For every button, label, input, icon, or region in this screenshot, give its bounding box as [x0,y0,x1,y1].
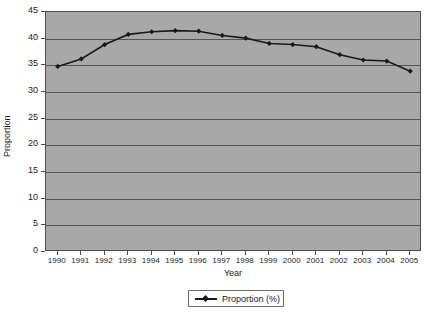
data-point-marker [126,32,131,37]
x-axis-tick-mark [245,251,246,255]
x-axis-tick-label: 2000 [279,256,305,265]
legend-item-label: Proportion (%) [222,294,280,304]
x-axis-tick-mark [315,251,316,255]
x-axis-tick-label: 1996 [185,256,211,265]
x-axis-title: Year [45,268,421,278]
x-axis-tick-label: 1993 [114,256,140,265]
data-point-marker [55,64,60,69]
x-axis-tick-mark [292,251,293,255]
x-axis-tick-label: 2002 [326,256,352,265]
data-point-marker [337,52,342,57]
x-axis-tick-mark [174,251,175,255]
y-axis-title: Proportion [2,96,16,176]
y-axis-tick-label: 30 [14,86,38,95]
x-axis-tick-label: 1994 [138,256,164,265]
y-axis-tick-label: 35 [14,59,38,68]
x-axis-tick-mark [362,251,363,255]
series-proportion [46,12,422,252]
legend: Proportion (%) [188,290,284,307]
x-axis-tick-label: 1998 [232,256,258,265]
x-axis-tick-mark [127,251,128,255]
y-axis-tick-label: 45 [14,6,38,15]
data-point-marker [290,42,295,47]
y-axis-tick-label: 0 [14,246,38,255]
x-axis-tick-label: 1990 [44,256,70,265]
x-axis-tick-mark [221,251,222,255]
data-point-marker [220,33,225,38]
data-point-marker [243,36,248,41]
x-axis-tick-mark [151,251,152,255]
data-point-marker [384,58,389,63]
data-point-marker [361,57,366,62]
y-axis-tick-label: 15 [14,166,38,175]
data-point-marker [408,69,413,74]
x-axis-tick-mark [386,251,387,255]
x-axis-tick-label: 1999 [255,256,281,265]
x-axis-tick-label: 1991 [67,256,93,265]
x-axis-tick-mark [339,251,340,255]
x-axis-tick-mark [268,251,269,255]
y-axis-tick-mark [41,251,45,252]
x-axis-tick-mark [104,251,105,255]
series-line [58,31,411,72]
y-axis-tick-label: 25 [14,113,38,122]
line-chart: Proportion 051015202530354045 1990199119… [0,0,434,316]
y-axis-tick-label: 5 [14,219,38,228]
data-point-marker [149,29,154,34]
x-axis-tick-label: 2005 [396,256,422,265]
y-axis-tick-label: 40 [14,33,38,42]
data-point-marker [267,41,272,46]
x-axis-tick-label: 2003 [349,256,375,265]
x-axis-tick-mark [57,251,58,255]
x-axis-tick-label: 1997 [208,256,234,265]
x-axis-tick-label: 1995 [161,256,187,265]
x-axis-tick-label: 2001 [302,256,328,265]
y-axis-tick-label: 10 [14,193,38,202]
x-axis-tick-mark [80,251,81,255]
data-point-marker [314,44,319,49]
data-point-marker [173,28,178,33]
x-axis-tick-label: 1992 [91,256,117,265]
legend-marker-icon [202,295,209,302]
plot-area [45,11,421,251]
data-point-marker [196,29,201,34]
x-axis-tick-mark [198,251,199,255]
x-axis-tick-label: 2004 [373,256,399,265]
y-axis-tick-label: 20 [14,139,38,148]
x-axis-tick-mark [409,251,410,255]
